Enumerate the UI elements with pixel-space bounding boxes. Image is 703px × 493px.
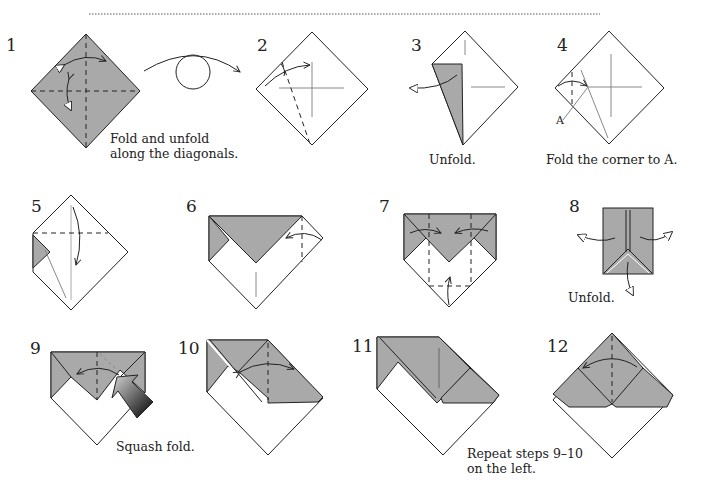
- step-12-diagram: [553, 333, 673, 458]
- step-number-8: 8: [569, 196, 580, 216]
- step-number-7: 7: [379, 196, 390, 216]
- origami-diagram: [0, 0, 703, 493]
- step-1-caption-line1: Fold and unfold: [110, 131, 238, 146]
- step-number-11: 11: [352, 336, 374, 356]
- step-11-diagram: [377, 337, 499, 455]
- step-number-6: 6: [186, 196, 197, 216]
- step-number-3: 3: [411, 35, 422, 55]
- step-8-caption: Unfold.: [568, 290, 615, 305]
- step-6-diagram: [209, 216, 323, 309]
- step-number-4: 4: [557, 35, 568, 55]
- step-number-12: 12: [547, 336, 569, 356]
- step-4-caption: Fold the corner to A.: [546, 152, 677, 167]
- step-9-diagram: [51, 352, 153, 445]
- step-9-caption: Squash fold.: [116, 439, 195, 454]
- step-number-9: 9: [30, 338, 41, 358]
- step-number-5: 5: [31, 196, 42, 216]
- step-11-caption-line1: Repeat steps 9–10: [467, 446, 583, 461]
- step-10-diagram: [207, 340, 323, 455]
- step-5-diagram: [33, 195, 128, 310]
- step-11-caption: Repeat steps 9–10 on the left.: [467, 446, 583, 476]
- step-8-diagram: [578, 208, 672, 295]
- step-number-2: 2: [257, 35, 268, 55]
- step-number-1: 1: [6, 35, 17, 55]
- step-3-diagram: [410, 31, 518, 145]
- step-3-caption: Unfold.: [429, 152, 476, 167]
- turn-over-symbol: [144, 55, 240, 89]
- step-number-10: 10: [178, 338, 200, 358]
- step-1-caption: Fold and unfold along the diagonals.: [110, 131, 238, 161]
- step-4-diagram: [555, 31, 664, 144]
- step-4-point-label: A: [556, 113, 564, 128]
- step-7-diagram: [404, 214, 496, 307]
- step-1-caption-line2: along the diagonals.: [110, 146, 238, 161]
- step-2-diagram: [256, 32, 368, 145]
- step-11-caption-line2: on the left.: [467, 461, 583, 476]
